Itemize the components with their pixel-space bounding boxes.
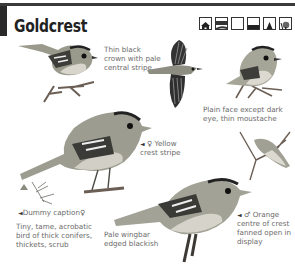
male-symbol: ♂ <box>244 210 250 219</box>
broadleaf-tree-icon <box>279 17 292 30</box>
title-side-bar <box>0 6 7 36</box>
house-icon <box>199 17 212 30</box>
goldcrest-tiny-distant <box>18 180 60 208</box>
hedge-field-icon <box>215 17 228 30</box>
dense-cover-icon <box>247 17 260 30</box>
conifer-icon <box>263 17 276 30</box>
description-caption: Tiny, tame, acrobatic bird of thick coni… <box>16 222 94 249</box>
female-symbol: ♀ <box>147 139 152 148</box>
page-title: Goldcrest <box>14 16 87 36</box>
goldcrest-perched-top-right <box>222 44 294 100</box>
goldcrest-perched-top-left <box>14 42 100 110</box>
top-rule <box>0 3 295 6</box>
goldcrest-male-large <box>112 176 256 266</box>
dummy-caption-text: Dummy caption <box>23 208 80 217</box>
goldcrest-flying <box>145 38 207 110</box>
female-symbol: ♀ <box>80 208 85 217</box>
male-caption: ◄ ♂ Orange centre of crest fanned open i… <box>237 210 295 246</box>
pointer-icon: ◄ <box>140 140 145 147</box>
female-caption: ◄ ♀ Yellow crest stripe <box>140 139 196 157</box>
goldcrest-hanging <box>236 130 294 182</box>
face-caption: Plain face except dark eye, thin moustac… <box>203 105 287 123</box>
open-ground-icon <box>231 17 244 30</box>
habitat-icons <box>199 17 292 30</box>
wingbar-caption: Pale wingbar edged blackish <box>104 230 166 248</box>
dummy-caption: ◄Dummy caption♀ <box>18 208 118 217</box>
pointer-icon: ◄ <box>237 211 242 218</box>
